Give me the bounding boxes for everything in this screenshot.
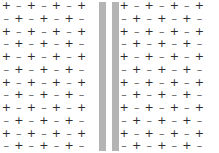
charge-plus: + bbox=[155, 13, 168, 26]
charge-plus: + bbox=[130, 13, 143, 26]
charge-plus: + bbox=[181, 115, 194, 128]
charge-minus: – bbox=[50, 140, 63, 153]
lattice-gap bbox=[88, 140, 118, 153]
charge-minus: – bbox=[38, 0, 51, 13]
charge-minus: – bbox=[25, 140, 38, 153]
charge-minus: – bbox=[193, 140, 206, 153]
charge-plus: + bbox=[13, 140, 26, 153]
charge-minus: – bbox=[0, 140, 13, 153]
charge-minus: – bbox=[25, 115, 38, 128]
charge-minus: – bbox=[38, 51, 51, 64]
charge-plus: + bbox=[25, 102, 38, 115]
charge-minus: – bbox=[25, 64, 38, 77]
charge-minus: – bbox=[130, 51, 143, 64]
charge-plus: + bbox=[75, 102, 88, 115]
charge-minus: – bbox=[143, 140, 156, 153]
charge-minus: – bbox=[13, 51, 26, 64]
charge-plus: + bbox=[38, 13, 51, 26]
charge-minus: – bbox=[75, 13, 88, 26]
lattice-gap bbox=[88, 51, 118, 64]
charge-plus: + bbox=[155, 140, 168, 153]
charge-plus: + bbox=[155, 115, 168, 128]
charge-plus: + bbox=[0, 0, 13, 13]
lattice-row: –+–+–+––+–+–+– bbox=[0, 13, 219, 26]
charge-lattice-figure: +–+–+–++–+–+–+–+–+–+––+–+–+–+–+–+–++–+–+… bbox=[0, 0, 219, 153]
charge-plus: + bbox=[13, 64, 26, 77]
charge-plus: + bbox=[25, 51, 38, 64]
charge-minus: – bbox=[118, 140, 131, 153]
charge-minus: – bbox=[143, 64, 156, 77]
charge-plus: + bbox=[193, 102, 206, 115]
charge-plus: + bbox=[50, 0, 63, 13]
lattice-row: –+–+–+––+–+–+– bbox=[0, 115, 219, 128]
charge-minus: – bbox=[155, 102, 168, 115]
charge-minus: – bbox=[75, 140, 88, 153]
charge-plus: + bbox=[25, 0, 38, 13]
charge-minus: – bbox=[168, 140, 181, 153]
charge-plus: + bbox=[38, 115, 51, 128]
charge-plus: + bbox=[50, 102, 63, 115]
charge-minus: – bbox=[63, 0, 76, 13]
charge-minus: – bbox=[181, 102, 194, 115]
lattice-gap bbox=[88, 26, 118, 39]
lattice-gap bbox=[88, 77, 118, 90]
charge-plus: + bbox=[75, 51, 88, 64]
charge-plus: + bbox=[118, 51, 131, 64]
charge-minus: – bbox=[38, 102, 51, 115]
charge-minus: – bbox=[130, 0, 143, 13]
charge-plus: + bbox=[63, 13, 76, 26]
charge-minus: – bbox=[155, 51, 168, 64]
lattice-gap bbox=[88, 89, 118, 102]
charge-plus: + bbox=[63, 140, 76, 153]
charge-plus: + bbox=[118, 0, 131, 13]
charge-plus: + bbox=[181, 140, 194, 153]
lattice-row: +–+–+–++–+–+–+ bbox=[0, 102, 219, 115]
charge-minus: – bbox=[0, 64, 13, 77]
charge-minus: – bbox=[75, 64, 88, 77]
charge-minus: – bbox=[13, 0, 26, 13]
charge-minus: – bbox=[193, 64, 206, 77]
charge-minus: – bbox=[75, 115, 88, 128]
charge-plus: + bbox=[130, 64, 143, 77]
charge-minus: – bbox=[193, 13, 206, 26]
charge-minus: – bbox=[13, 102, 26, 115]
charge-plus: + bbox=[0, 102, 13, 115]
lattice-gap bbox=[88, 64, 118, 77]
charge-plus: + bbox=[193, 0, 206, 13]
charge-plus: + bbox=[143, 51, 156, 64]
charge-minus: – bbox=[130, 102, 143, 115]
lattice-gap bbox=[88, 38, 118, 51]
charge-plus: + bbox=[181, 64, 194, 77]
charge-minus: – bbox=[143, 13, 156, 26]
lattice-grid: +–+–+–++–+–+–+–+–+–+––+–+–+–+–+–+–++–+–+… bbox=[0, 0, 219, 153]
charge-plus: + bbox=[63, 115, 76, 128]
lattice-gap bbox=[88, 128, 118, 141]
lattice-row: +–+–+–++–+–+–+ bbox=[0, 51, 219, 64]
charge-minus: – bbox=[0, 115, 13, 128]
charge-plus: + bbox=[63, 64, 76, 77]
charge-plus: + bbox=[75, 0, 88, 13]
charge-minus: – bbox=[63, 51, 76, 64]
charge-plus: + bbox=[13, 13, 26, 26]
charge-plus: + bbox=[168, 102, 181, 115]
charge-minus: – bbox=[118, 115, 131, 128]
charge-plus: + bbox=[155, 64, 168, 77]
charge-plus: + bbox=[13, 115, 26, 128]
charge-minus: – bbox=[50, 13, 63, 26]
charge-plus: + bbox=[0, 51, 13, 64]
charge-minus: – bbox=[168, 13, 181, 26]
charge-minus: – bbox=[25, 13, 38, 26]
charge-minus: – bbox=[118, 13, 131, 26]
charge-plus: + bbox=[193, 51, 206, 64]
charge-minus: – bbox=[181, 0, 194, 13]
charge-plus: + bbox=[181, 13, 194, 26]
charge-plus: + bbox=[50, 51, 63, 64]
lattice-row: +–+–+–++–+–+–+ bbox=[0, 0, 219, 13]
charge-minus: – bbox=[63, 102, 76, 115]
charge-plus: + bbox=[168, 0, 181, 13]
charge-minus: – bbox=[155, 0, 168, 13]
lattice-gap bbox=[88, 115, 118, 128]
lattice-row: –+–+–+––+–+–+– bbox=[0, 64, 219, 77]
charge-minus: – bbox=[50, 115, 63, 128]
charge-plus: + bbox=[38, 64, 51, 77]
